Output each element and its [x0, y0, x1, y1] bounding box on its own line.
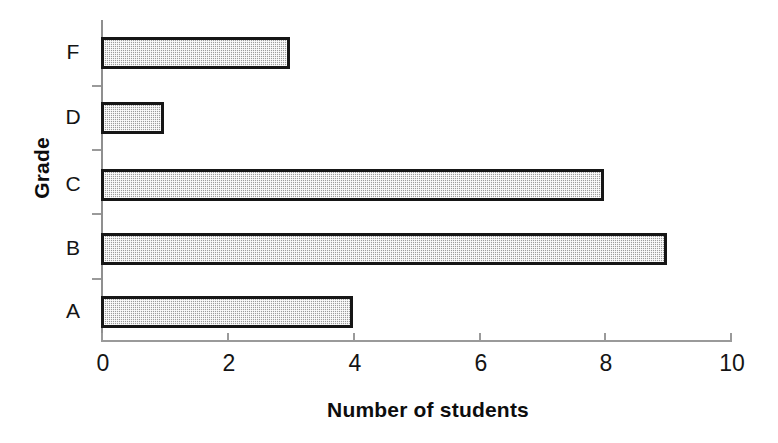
y-axis-tick	[92, 213, 101, 215]
bar-grade-a	[101, 296, 353, 328]
x-axis-tick-label-0: 0	[73, 352, 133, 375]
x-axis-tick	[479, 333, 481, 342]
bar-grade-d	[101, 102, 164, 134]
bar-grade-c	[101, 169, 604, 201]
y-axis-label-f: F	[54, 41, 92, 62]
x-axis-title: Number of students	[0, 398, 778, 422]
x-axis-tick-label-10: 10	[702, 352, 762, 375]
x-axis-tick-label-4: 4	[325, 352, 385, 375]
bar-grade-f	[101, 37, 290, 69]
bar-grade-b	[101, 233, 667, 265]
y-axis-tick	[92, 85, 101, 87]
x-axis-tick	[604, 333, 606, 342]
x-axis-tick-label-8: 8	[576, 352, 636, 375]
x-axis-tick-label-2: 2	[199, 352, 259, 375]
y-axis-label-b: B	[54, 237, 92, 258]
y-axis-tick	[92, 149, 101, 151]
y-axis-tick	[92, 278, 101, 280]
x-axis-tick	[353, 333, 355, 342]
y-axis-label-a: A	[54, 300, 92, 321]
x-axis-tick	[101, 333, 103, 342]
x-axis-tick	[227, 333, 229, 342]
y-axis-label-d: D	[54, 106, 92, 127]
x-axis-line	[101, 340, 732, 342]
x-axis-tick-label-6: 6	[451, 352, 511, 375]
bar-chart-figure: F D C B A 0 2 4 6 8 10 Number of student…	[0, 0, 778, 443]
y-axis-title: Grade	[30, 108, 54, 228]
x-axis-tick	[730, 333, 732, 342]
y-axis-label-c: C	[54, 173, 92, 194]
